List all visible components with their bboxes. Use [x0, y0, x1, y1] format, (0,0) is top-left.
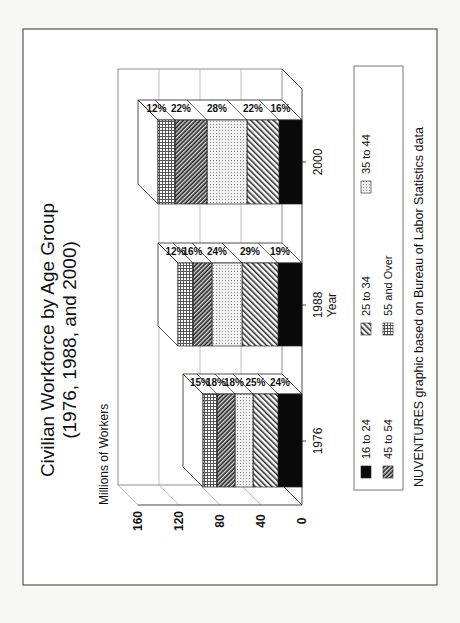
year-label-1988: 1988 [311, 291, 325, 318]
bar-1988 [158, 243, 302, 346]
tick-80: 80 [213, 514, 227, 528]
percent-label: 16% [270, 103, 290, 114]
chart-subtitle: (1976, 1988, and 2000) [59, 241, 80, 439]
tick-160: 160 [131, 511, 145, 531]
legend-swatch-16-24 [361, 466, 371, 478]
chart: Civilian Workforce by Age Group (1976, 1… [0, 0, 460, 623]
tick-40: 40 [254, 514, 268, 528]
legend-swatch-55-over [383, 323, 393, 335]
x-axis-label: Year [325, 293, 339, 317]
year-label-2000: 2000 [311, 148, 325, 175]
percent-label: 19% [270, 246, 290, 257]
legend-label-35-44: 35 to 44 [360, 134, 372, 174]
percent-label: 12% [165, 246, 185, 257]
source-credit: NUVENTURES graphic based on Bureau of La… [412, 127, 426, 487]
legend-swatch-45-54 [383, 466, 393, 478]
percent-label: 12% [146, 103, 166, 114]
tick-120: 120 [172, 511, 186, 531]
chart-title: Civilian Workforce by Age Group [37, 203, 58, 477]
percent-label: 29% [240, 246, 260, 257]
bar-2000 [138, 100, 302, 204]
year-label-1976: 1976 [311, 427, 325, 454]
percent-label: 25% [245, 377, 265, 388]
percent-label: 24% [207, 246, 227, 257]
legend-label-25-34: 25 to 34 [360, 276, 372, 316]
percent-label: 22% [243, 103, 263, 114]
bar-1976 [183, 374, 302, 487]
percent-label: 15% [190, 377, 210, 388]
legend-swatch-35-44 [361, 181, 371, 193]
legend-label-45-54: 45 to 54 [382, 419, 394, 459]
percent-label: 18% [224, 377, 244, 388]
legend-label-16-24: 16 to 24 [360, 419, 372, 459]
percent-label: 28% [207, 103, 227, 114]
tick-0: 0 [295, 517, 309, 524]
percent-label: 22% [171, 103, 191, 114]
y-axis-label: Millions of Workers [97, 404, 111, 505]
legend-swatch-25-34 [361, 323, 371, 335]
legend-label-55-over: 55 and Over [382, 255, 394, 316]
percent-label: 24% [270, 377, 290, 388]
